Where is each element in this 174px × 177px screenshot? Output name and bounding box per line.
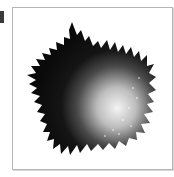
fractal-image bbox=[13, 8, 172, 169]
image-frame bbox=[12, 7, 173, 170]
partial-left-element bbox=[0, 11, 4, 23]
